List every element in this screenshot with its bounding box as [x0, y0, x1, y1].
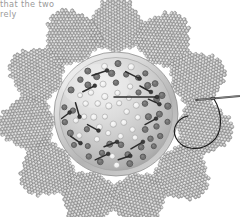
- bead: [128, 30, 131, 33]
- disc-hole-dark: [85, 82, 91, 88]
- disc-hole-dark: [159, 92, 165, 98]
- disc-hole-dark: [118, 142, 124, 148]
- bead: [37, 121, 41, 125]
- pin-head: [128, 154, 132, 158]
- disc-hole-light: [73, 118, 78, 123]
- disc-hole-light: [133, 102, 139, 108]
- bead: [19, 97, 23, 101]
- disc-hole-dark: [78, 77, 83, 82]
- disc-hole-light: [124, 109, 130, 115]
- bead: [123, 10, 126, 13]
- bead: [10, 126, 14, 130]
- disc-hole-light: [102, 114, 107, 119]
- disc-hole-dark: [156, 111, 162, 117]
- disc-hole-light: [127, 84, 132, 89]
- disc-hole-dark: [113, 80, 118, 85]
- disc-hole-dark: [115, 61, 121, 67]
- disc-hole-light: [132, 135, 137, 140]
- disc-hole-dark: [136, 90, 141, 95]
- pin-head: [97, 129, 101, 133]
- bead: [1, 110, 5, 114]
- disc-hole-light: [114, 162, 120, 168]
- pin-head: [78, 115, 82, 119]
- page-canvas: that the two rely: [0, 0, 240, 217]
- disc-hole-dark: [143, 71, 148, 76]
- beaded-flower-figure: [0, 0, 240, 217]
- disc-hole-light: [110, 154, 116, 160]
- pin-head: [105, 69, 109, 73]
- bead: [120, 38, 123, 41]
- pin-head: [79, 141, 83, 145]
- bead: [11, 118, 15, 122]
- pin-head: [155, 95, 159, 99]
- disc-hole-dark: [62, 119, 67, 124]
- pin-head: [115, 140, 119, 144]
- disc-hole-dark: [62, 105, 67, 110]
- disc-hole-dark: [158, 133, 163, 138]
- bead: [15, 100, 19, 104]
- cut-off-paragraph: that the two rely: [0, 0, 120, 19]
- disc-hole-dark: [68, 87, 74, 93]
- disc-hole-dark: [148, 136, 154, 142]
- disc-hole-dark: [138, 144, 144, 150]
- disc-hole-light: [117, 101, 122, 106]
- disc-hole-light: [102, 93, 108, 99]
- disc-hole-light: [110, 121, 116, 127]
- disc-hole-light: [115, 90, 121, 96]
- disc-hole-dark: [99, 150, 104, 155]
- disc-hole-dark: [152, 81, 158, 87]
- disc-hole-dark: [165, 103, 171, 109]
- disc-hole-dark: [71, 142, 76, 147]
- disc-hole-dark: [97, 159, 103, 165]
- disc-hole-light: [130, 127, 135, 132]
- disc-hole-dark: [140, 154, 146, 160]
- pin-head: [158, 102, 162, 106]
- pin-head: [106, 152, 110, 156]
- disc-hole-light: [128, 64, 134, 70]
- disc-hole-dark: [154, 124, 159, 129]
- disc-hole-dark: [108, 70, 114, 76]
- disc-hole-light: [121, 119, 127, 125]
- pin-head: [138, 77, 142, 81]
- disc-hole-dark: [86, 154, 91, 159]
- disc-hole-light: [81, 114, 86, 119]
- disc-hole-dark: [142, 101, 148, 107]
- disc-hole-light: [83, 101, 89, 107]
- disc-hole-light: [94, 137, 100, 143]
- bead: [123, 17, 126, 20]
- disc-hole-dark: [142, 127, 148, 133]
- pin-head: [68, 111, 72, 115]
- disc-hole-dark: [85, 68, 91, 74]
- disc-hole-dark: [127, 161, 133, 167]
- disc-hole-light: [135, 115, 140, 120]
- disc-hole-dark: [145, 114, 151, 120]
- bead: [137, 15, 140, 18]
- disc-hole-dark: [85, 144, 90, 149]
- disc-hole-light: [126, 95, 131, 100]
- disc-hole-light: [102, 63, 108, 69]
- disc-hole-light: [106, 103, 112, 109]
- pin-head: [149, 90, 153, 94]
- pin-head: [141, 140, 145, 144]
- disc-hole-dark: [165, 119, 170, 124]
- bead: [128, 0, 132, 4]
- disc-hole-light: [88, 90, 94, 96]
- figure-svg: [0, 0, 240, 217]
- disc-hole-light: [106, 130, 111, 135]
- bead: [122, 4, 126, 8]
- pin-head: [93, 84, 97, 88]
- bead: [114, 44, 117, 47]
- disc-hole-light: [100, 81, 106, 87]
- disc-hole-dark: [145, 82, 151, 88]
- disc-hole-light: [77, 133, 83, 139]
- disc-hole-dark: [67, 130, 73, 136]
- disc-hole-light: [95, 101, 101, 107]
- disc-hole-light: [91, 114, 97, 120]
- bead: [5, 110, 9, 114]
- disc-hole-dark: [84, 127, 89, 132]
- bead: [11, 103, 14, 106]
- disc-hole-light: [118, 133, 123, 138]
- disc-hole-light: [78, 93, 83, 98]
- disc-hole-dark: [151, 144, 156, 149]
- bead: [134, 10, 138, 14]
